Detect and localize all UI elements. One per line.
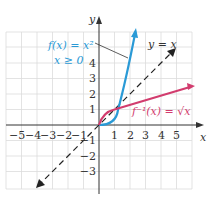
f-inverse-label: f⁻¹(x) = √x bbox=[131, 105, 191, 118]
svg-text:3: 3 bbox=[89, 72, 96, 85]
function-inverse-graph: f(x) = x² x ≥ 0 y = x f⁻¹(x) = √x x y −5… bbox=[0, 0, 215, 198]
svg-text:−2: −2 bbox=[80, 150, 96, 163]
svg-text:4: 4 bbox=[158, 129, 165, 142]
identity-line bbox=[38, 50, 174, 186]
x-axis-arrow-icon bbox=[196, 122, 204, 128]
svg-text:2: 2 bbox=[89, 88, 96, 101]
svg-text:−5: −5 bbox=[9, 129, 25, 142]
svg-text:1: 1 bbox=[111, 129, 118, 142]
f-inverse-arrow-icon bbox=[187, 83, 195, 90]
identity-label: y = x bbox=[147, 38, 177, 51]
f-label-line1: f(x) = x² bbox=[47, 39, 94, 52]
y-axis-arrow-icon bbox=[96, 16, 102, 24]
y-tick-labels: 4 3 2 1 −1 −2 −3 bbox=[80, 57, 96, 178]
svg-text:1: 1 bbox=[89, 103, 96, 116]
svg-text:4: 4 bbox=[89, 57, 96, 70]
y-axis-label: y bbox=[88, 13, 96, 26]
svg-text:5: 5 bbox=[173, 129, 180, 142]
f-label-line2: x ≥ 0 bbox=[54, 54, 83, 67]
svg-text:−3: −3 bbox=[80, 165, 96, 178]
svg-text:3: 3 bbox=[142, 129, 149, 142]
svg-text:−4: −4 bbox=[25, 129, 41, 142]
svg-text:−3: −3 bbox=[40, 129, 56, 142]
label-leader-line bbox=[95, 43, 128, 58]
f-arrow-icon bbox=[131, 28, 138, 38]
svg-text:−2: −2 bbox=[56, 129, 72, 142]
x-axis-label: x bbox=[200, 131, 207, 144]
svg-text:2: 2 bbox=[127, 129, 134, 142]
svg-text:−1: −1 bbox=[80, 134, 96, 147]
